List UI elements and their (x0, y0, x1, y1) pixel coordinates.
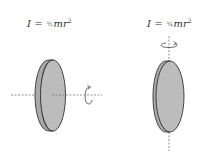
rotation-arrow-icon (85, 87, 92, 104)
disk-face (156, 61, 184, 132)
disk-face (41, 60, 66, 131)
disk-diagram (0, 0, 201, 159)
left-disk-group (11, 60, 102, 131)
arrowhead-icon (174, 42, 177, 46)
right-disk-group (153, 36, 184, 151)
